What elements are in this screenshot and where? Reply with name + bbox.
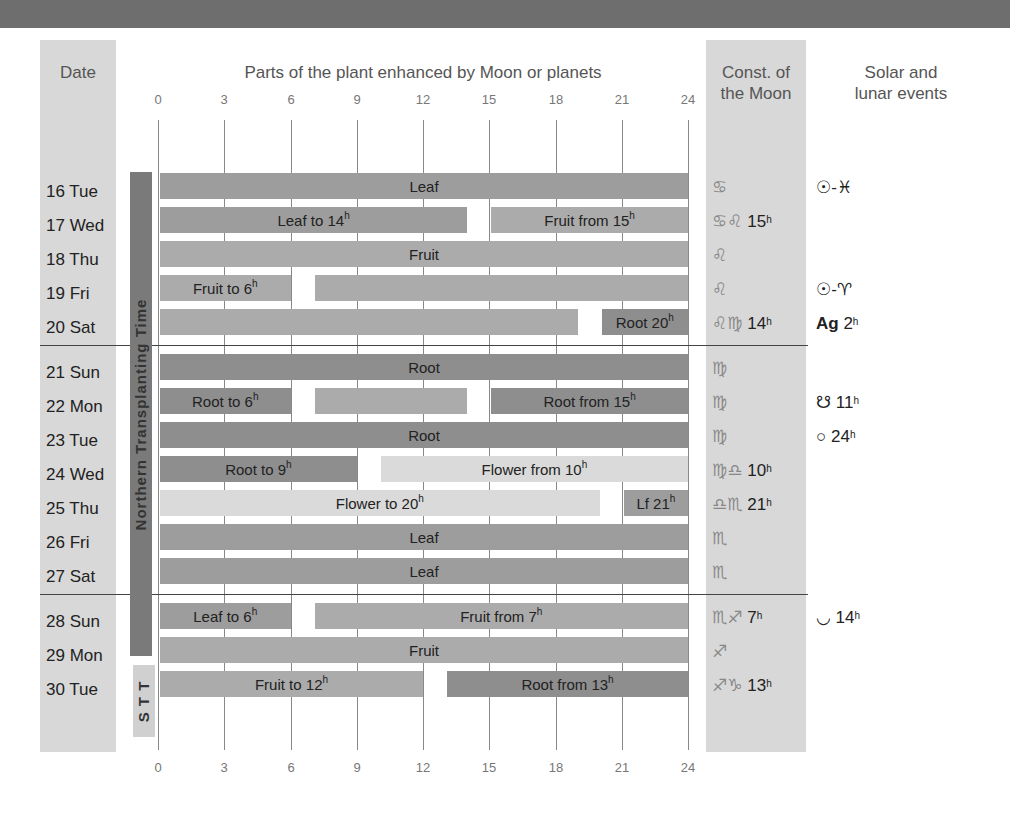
bar-label: Root	[408, 427, 440, 444]
hour-sup: h	[629, 210, 635, 221]
bottom-axis-tick: 0	[143, 760, 173, 775]
moon-constellation: ♏	[712, 529, 727, 549]
bar-label: Root to 6h	[192, 393, 258, 410]
hour-sup: h	[322, 674, 328, 685]
hour-sup: h	[630, 391, 636, 402]
date-label: 23 Tue	[46, 431, 98, 451]
bar-root: Root	[160, 354, 688, 380]
const-header-line1: Const. of	[706, 62, 806, 83]
bottom-axis-tick: 9	[342, 760, 372, 775]
top-axis-tick: 15	[474, 92, 504, 107]
bar-label: Root to 9h	[225, 461, 291, 478]
moon-constellation: ♌♍ 14h	[712, 314, 772, 334]
bar-leaf: Leaf	[160, 558, 688, 584]
event-symbol: ○	[816, 427, 826, 446]
week-separator	[40, 345, 808, 346]
const-header-line2: the Moon	[706, 83, 806, 104]
moon-constellation: ♋♌ 15h	[712, 212, 772, 232]
date-label: 28 Sun	[46, 612, 100, 632]
hour-sup: h	[582, 459, 588, 470]
bar-root: Root to 9h	[160, 456, 357, 482]
event-time: 14h	[831, 608, 860, 627]
bar-fruit: Fruit	[160, 637, 688, 663]
hour-sup: h	[252, 278, 258, 289]
bar-label: Fruit from 15h	[544, 212, 635, 229]
top-axis-tick: 3	[209, 92, 239, 107]
top-axis-tick: 18	[541, 92, 571, 107]
gridline	[688, 120, 689, 750]
solar-lunar-event: ☉-♈	[816, 280, 852, 300]
bottom-axis-tick: 21	[607, 760, 637, 775]
top-axis-tick: 24	[673, 92, 703, 107]
bar-label: Root 20h	[616, 314, 674, 331]
top-axis-tick: 21	[607, 92, 637, 107]
bottom-axis-tick: 15	[474, 760, 504, 775]
bar-label: Lf 21h	[636, 495, 675, 512]
bottom-axis-tick: 24	[673, 760, 703, 775]
bottom-axis-tick: 3	[209, 760, 239, 775]
bar-fruit: Fruit to 6h	[160, 275, 291, 301]
moon-constellation: ♐	[712, 642, 727, 662]
bar-leaf: Leaf to 6h	[160, 603, 291, 629]
bar-label: Fruit to 12h	[255, 676, 328, 693]
date-label: 16 Tue	[46, 182, 98, 202]
moon-constellation: ♐♑ 13h	[712, 676, 772, 696]
bar-label: Leaf	[409, 563, 438, 580]
moon-constellation: ♎♏ 21h	[712, 495, 772, 515]
bar-root: Root from 15h	[491, 388, 688, 414]
bar-fruit: Fruit to 12h	[160, 671, 423, 697]
date-label: 20 Sat	[46, 318, 95, 338]
bar-leaf: Leaf	[160, 524, 688, 550]
hour-sup: h	[608, 674, 614, 685]
bar-flower: Flower to 20h	[160, 490, 600, 516]
constellation-change-time: 14h	[742, 314, 771, 333]
hour-sup: h	[537, 606, 543, 617]
bar-flower: Flower from 10h	[381, 456, 688, 482]
moon-constellation: ♍	[712, 393, 727, 413]
top-axis-tick: 12	[408, 92, 438, 107]
events-header-line2: lunar events	[816, 83, 986, 104]
bar-fruit: Fruit from 15h	[491, 207, 688, 233]
constellation-change-time: 21h	[742, 495, 771, 514]
bottom-axis-tick: 12	[408, 760, 438, 775]
event-time: 11h	[831, 393, 859, 412]
constellation-change-time: 7h	[742, 608, 762, 627]
bar-label: Leaf to 6h	[193, 608, 257, 625]
bar-fruit	[160, 309, 578, 335]
solar-lunar-event: ☉-♓	[816, 178, 852, 198]
top-axis-tick: 6	[276, 92, 306, 107]
event-symbol: ☉-♈	[816, 280, 852, 299]
bar-root: Root 20h	[602, 309, 688, 335]
bar-label: Fruit	[409, 642, 439, 659]
bar-fruit: Fruit	[160, 241, 688, 267]
bar-label: Root	[408, 359, 440, 376]
parts-header: Parts of the plant enhanced by Moon or p…	[158, 62, 688, 83]
date-label: 29 Mon	[46, 646, 103, 666]
bar-root: Root to 6h	[160, 388, 291, 414]
events-header-line1: Solar and	[816, 62, 986, 83]
moon-constellation: ♏	[712, 563, 727, 583]
bar-root: Root	[160, 422, 688, 448]
bar-label: Flower to 20h	[336, 495, 424, 512]
date-header: Date	[40, 62, 116, 83]
solar-lunar-event: ◡ 14h	[816, 608, 860, 628]
date-label: 17 Wed	[46, 216, 104, 236]
event-symbol: ◡	[816, 608, 831, 627]
date-label: 18 Thu	[46, 250, 99, 270]
bottom-axis-tick: 18	[541, 760, 571, 775]
top-axis-tick: 9	[342, 92, 372, 107]
bottom-axis-tick: 6	[276, 760, 306, 775]
bar-fruit	[315, 388, 468, 414]
constellation-change-time: 10h	[742, 461, 771, 480]
constellation-change-time: 13h	[742, 676, 771, 695]
solar-lunar-event: Ag 2h	[816, 314, 858, 334]
event-symbol: ☉-♓	[816, 178, 852, 197]
bar-leaf: Leaf to 14h	[160, 207, 467, 233]
hour-sup: h	[253, 391, 259, 402]
solar-lunar-event: ☋ 11h	[816, 393, 859, 413]
bar-label: Root from 13h	[521, 676, 613, 693]
date-label: 24 Wed	[46, 465, 104, 485]
hour-sup: h	[418, 493, 424, 504]
hour-sup: h	[670, 493, 676, 504]
date-label: 27 Sat	[46, 567, 95, 587]
